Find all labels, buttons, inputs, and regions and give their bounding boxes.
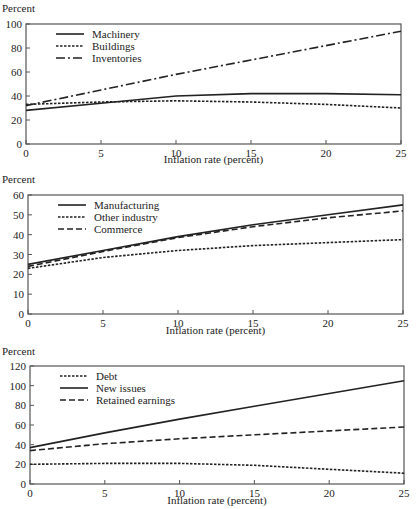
x-tick-label: 20: [323, 317, 335, 329]
x-tick-label: 0: [23, 147, 29, 159]
x-tick-label: 10: [171, 147, 183, 159]
y-tick-label: 80: [15, 399, 27, 411]
y-tick-label: 40: [13, 229, 25, 241]
x-tick-label: 15: [248, 317, 260, 329]
chart-3: PercentInflation rate (percent)020406080…: [2, 345, 410, 507]
y-tick-label: 40: [11, 90, 23, 102]
x-tick-label: 10: [174, 487, 186, 499]
y-tick-label: 60: [11, 66, 23, 78]
series-line-commerce: [28, 211, 403, 267]
y-tick-label: 80: [11, 42, 23, 54]
y-tick-label: 10: [13, 288, 25, 300]
y-tick-label: 20: [11, 114, 23, 126]
y-tick-label: 40: [15, 439, 27, 451]
x-tick-label: 25: [398, 317, 410, 329]
y-axis-label: Percent: [2, 2, 35, 14]
y-tick-label: 50: [13, 209, 25, 221]
x-tick-label: 10: [173, 317, 185, 329]
series-line-retained-earnings: [30, 427, 404, 451]
chart-2: PercentInflation rate (percent)010203040…: [2, 173, 409, 337]
y-tick-label: 60: [13, 189, 25, 201]
charts-figure: PercentInflation rate (percent)020406080…: [0, 0, 417, 509]
y-tick-label: 0: [19, 308, 25, 320]
x-tick-label: 5: [98, 147, 104, 159]
x-tick-label: 5: [102, 487, 108, 499]
y-tick-label: 120: [10, 360, 27, 372]
x-tick-label: 0: [27, 487, 33, 499]
legend-label: Other industry: [94, 211, 158, 223]
x-tick-label: 15: [249, 487, 261, 499]
y-tick-label: 20: [15, 458, 27, 470]
y-axis-label: Percent: [2, 345, 35, 357]
legend-label: Inventories: [92, 52, 141, 64]
legend-label: Manufacturing: [94, 199, 160, 211]
chart-1: PercentInflation rate (percent)020406080…: [2, 2, 407, 166]
y-tick-label: 100: [6, 18, 23, 30]
x-tick-label: 5: [100, 317, 106, 329]
plot-frame: [30, 366, 404, 484]
legend-label: Retained earnings: [96, 394, 175, 406]
y-tick-label: 0: [17, 138, 23, 150]
y-tick-label: 30: [13, 249, 25, 261]
y-tick-label: 60: [15, 419, 27, 431]
legend-label: Debt: [96, 370, 117, 382]
series-line-debt: [30, 463, 404, 473]
x-tick-label: 25: [399, 487, 411, 499]
legend-label: Commerce: [94, 223, 142, 235]
y-axis-label: Percent: [2, 173, 35, 185]
x-tick-label: 15: [246, 147, 258, 159]
series-line-new-issues: [30, 381, 404, 448]
x-tick-label: 20: [324, 487, 336, 499]
legend-label: Buildings: [92, 40, 135, 52]
y-tick-label: 0: [21, 478, 27, 490]
legend-label: New issues: [96, 382, 146, 394]
x-tick-label: 25: [396, 147, 408, 159]
y-tick-label: 20: [13, 268, 25, 280]
y-tick-label: 100: [10, 380, 27, 392]
x-tick-label: 0: [25, 317, 31, 329]
legend-label: Machinery: [92, 28, 140, 40]
x-tick-label: 20: [321, 147, 333, 159]
